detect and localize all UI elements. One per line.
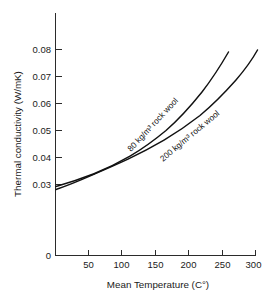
thermal-conductivity-chart: 0.08 0.07 0.06 0.05 0.04 0.03 0 50 100 1… — [0, 0, 273, 300]
axis-group — [56, 13, 256, 256]
x-tick-label: 250 — [215, 259, 231, 270]
x-axis-title: Mean Temperature (C°) — [107, 279, 209, 290]
x-tick-label: 50 — [83, 259, 94, 270]
series-label-200: 200 kg/m³ rock wool — [158, 108, 221, 163]
y-tick-label: 0.08 — [33, 44, 52, 55]
x-tick-label: 200 — [181, 259, 197, 270]
x-tick-group: 50 100 150 200 250 300 — [83, 250, 261, 271]
y-tick-label: 0.07 — [33, 71, 52, 82]
x-tick-label: 300 — [246, 259, 262, 270]
x-tick-label: 100 — [114, 259, 130, 270]
y-axis-title: Thermal conductivity (W/mK) — [12, 71, 23, 197]
y-tick-label: 0.03 — [33, 179, 52, 190]
x-tick-label: 150 — [148, 259, 164, 270]
y-tick-label: 0.06 — [33, 98, 52, 109]
y-tick-label-zero: 0 — [46, 250, 51, 261]
y-tick-label: 0.05 — [33, 125, 52, 136]
chart-canvas: 0.08 0.07 0.06 0.05 0.04 0.03 0 50 100 1… — [0, 0, 273, 300]
y-tick-group: 0.08 0.07 0.06 0.05 0.04 0.03 0 — [33, 44, 62, 261]
y-tick-label: 0.04 — [33, 152, 52, 163]
